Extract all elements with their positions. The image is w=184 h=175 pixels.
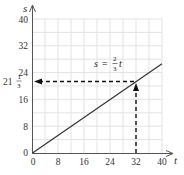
svg-text:32: 32 — [19, 41, 29, 51]
svg-text:8: 8 — [23, 122, 28, 132]
axes — [30, 5, 174, 157]
dashed-guides — [41, 82, 136, 154]
svg-text:16: 16 — [79, 157, 89, 167]
y-value-label-21-1-3: 21 1 3 — [3, 73, 22, 90]
x-axis-label: t — [174, 154, 178, 166]
svg-text:s: s — [94, 58, 98, 69]
arrow-up-icon — [133, 83, 139, 91]
svg-text:0: 0 — [23, 148, 28, 158]
arrow-left-icon — [34, 79, 42, 85]
grid — [32, 19, 162, 153]
svg-text:0: 0 — [31, 157, 36, 167]
svg-text:3: 3 — [113, 65, 117, 73]
y-axis-label: s — [23, 2, 27, 14]
x-tick-labels: 0 8 16 24 32 40 — [31, 157, 167, 167]
svg-text:16: 16 — [19, 95, 29, 105]
svg-text:8: 8 — [56, 157, 61, 167]
svg-text:3: 3 — [17, 82, 21, 90]
svg-text:40: 40 — [157, 157, 167, 167]
svg-text:40: 40 — [19, 15, 29, 25]
svg-text:=: = — [102, 58, 108, 69]
svg-text:32: 32 — [131, 157, 141, 167]
svg-text:2: 2 — [113, 55, 117, 63]
equation-label: s = 2 3 t — [94, 55, 122, 73]
svg-text:1: 1 — [18, 73, 22, 81]
line-chart: s t 40 32 24 16 8 0 21 1 3 0 8 16 24 32 … — [0, 0, 184, 175]
svg-text:21: 21 — [3, 77, 13, 87]
svg-text:t: t — [119, 58, 122, 69]
svg-text:24: 24 — [105, 157, 115, 167]
